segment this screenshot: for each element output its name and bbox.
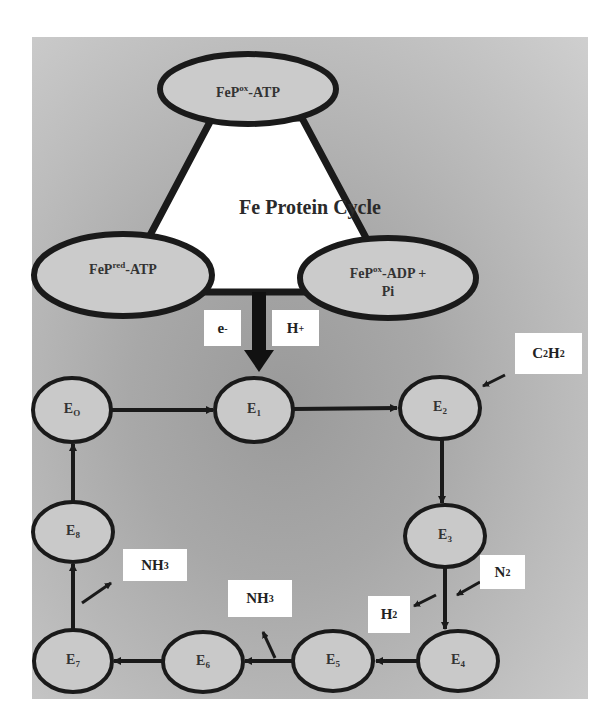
label-base: FeP	[89, 262, 112, 277]
label-suffix: -ATP	[125, 262, 157, 277]
e1-label: E1	[224, 400, 284, 422]
label-base: E	[64, 401, 73, 416]
fep-ox-adp-pi-label: FePox-ADP + Pi	[308, 260, 468, 301]
label-sup: -	[224, 323, 227, 334]
label-base: e	[217, 320, 224, 337]
label-part: NH	[141, 557, 164, 574]
label-sub: 7	[75, 659, 80, 669]
e5-label: E5	[303, 651, 363, 673]
fep-ox-atp-label: FePox-ATP	[168, 79, 328, 102]
label-sub: 8	[75, 530, 80, 540]
label-part: C	[532, 345, 543, 362]
label-sup: ox	[239, 83, 248, 93]
label-base: H	[287, 320, 299, 337]
label-sub: 2	[392, 609, 397, 620]
label-suffix: -ADP +	[382, 266, 426, 281]
e2-label: E2	[410, 398, 470, 420]
label-sub: 2	[442, 406, 447, 416]
h2-label-box: H2	[368, 596, 410, 633]
e3-label: E3	[415, 526, 475, 548]
n2-in-arrow	[457, 582, 480, 595]
e4-label: E4	[428, 651, 488, 673]
label-line2: Pi	[382, 284, 394, 299]
label-base: FeP	[216, 85, 239, 100]
label-sub: 2	[505, 567, 510, 578]
nh3-label-box-a: NH3	[228, 580, 292, 617]
n2-label-box: N2	[480, 555, 525, 589]
label-sub: 3	[447, 534, 452, 544]
label-part: N	[495, 564, 506, 581]
label-sup: ox	[373, 264, 382, 274]
proton-label-box: H+	[272, 310, 319, 346]
e7-label: E7	[43, 651, 103, 673]
label-sub: 5	[335, 659, 340, 669]
label-sup: +	[298, 323, 304, 334]
nh3-label-box-b: NH3	[123, 549, 187, 581]
label-base: FeP	[350, 266, 373, 281]
h2-out-arrow	[414, 595, 436, 606]
label-sub: 1	[256, 408, 261, 418]
label-suffix: -ATP	[248, 85, 280, 100]
edge-e1-e2	[294, 408, 397, 409]
fe-protein-cycle-title: Fe Protein Cycle	[190, 196, 430, 219]
nh3-out-arrow-a	[263, 632, 275, 658]
label-sub: 4	[460, 659, 465, 669]
fep-red-atp-label: FePred-ATP	[43, 256, 203, 279]
c2h2-in-arrow	[483, 375, 505, 386]
label-part: H	[548, 345, 560, 362]
label-sub: 6	[205, 660, 210, 670]
e6-label: E6	[173, 652, 233, 674]
electron-label-box: e-	[204, 310, 241, 346]
label-part: H	[381, 606, 393, 623]
nh3-out-arrow-b	[82, 583, 111, 603]
electron-transfer-arrow	[244, 292, 274, 372]
e8-label: E8	[43, 522, 103, 544]
label-sub: 3	[269, 593, 274, 604]
label-sub: 2	[560, 348, 565, 359]
label-sub: 3	[164, 560, 169, 571]
label-sub: O	[73, 408, 80, 418]
c2h2-label-box: C2H2	[515, 333, 582, 374]
label-part: NH	[246, 590, 269, 607]
e0-label: EO	[42, 400, 102, 422]
label-sup: red	[112, 260, 125, 270]
